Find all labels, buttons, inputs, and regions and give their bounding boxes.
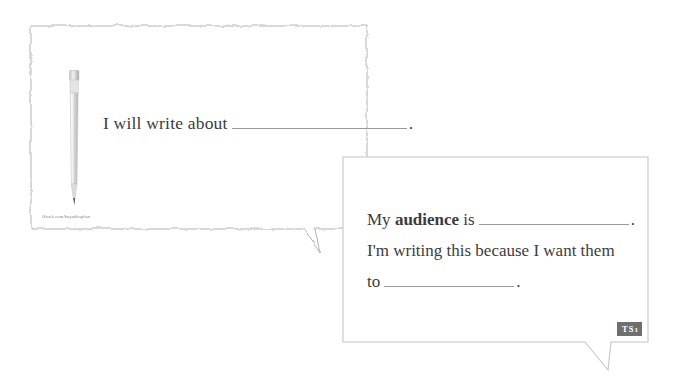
purpose-blank-field[interactable] bbox=[384, 272, 514, 287]
pencil-icon bbox=[65, 68, 83, 208]
badge-label: TS bbox=[622, 324, 635, 334]
audience-blank-field[interactable] bbox=[479, 210, 629, 225]
purpose-line: I'm writing this because I want them bbox=[367, 235, 635, 266]
purpose-line-text: I'm writing this because I want them bbox=[367, 235, 615, 266]
topic-prompt-label: I will write about bbox=[103, 113, 228, 134]
badge-subscript: 1 bbox=[635, 326, 639, 334]
worksheet-canvas: I will write about . iStock.com/hayatika… bbox=[0, 0, 685, 381]
audience-period: . bbox=[631, 204, 635, 235]
audience-emphasis: audience bbox=[395, 204, 459, 235]
stock-watermark: iStock.com/hayatikayhan bbox=[42, 214, 90, 219]
audience-line: My audience is . bbox=[367, 204, 635, 235]
audience-line-after: is bbox=[463, 204, 474, 235]
topic-period: . bbox=[409, 113, 414, 134]
topic-blank-field[interactable] bbox=[232, 114, 407, 129]
status-badge: TS1 bbox=[617, 322, 642, 336]
purpose-period: . bbox=[516, 266, 520, 297]
audience-bubble-content: My audience is . I'm writing this becaus… bbox=[343, 157, 648, 342]
topic-bubble-content: I will write about . iStock.com/hayatika… bbox=[30, 25, 366, 228]
purpose-continuation-line: to . bbox=[367, 266, 635, 297]
purpose-line-before: to bbox=[367, 266, 380, 297]
audience-prompt-block: My audience is . I'm writing this becaus… bbox=[367, 204, 635, 297]
topic-prompt: I will write about . bbox=[103, 113, 413, 134]
audience-line-before: My bbox=[367, 204, 391, 235]
